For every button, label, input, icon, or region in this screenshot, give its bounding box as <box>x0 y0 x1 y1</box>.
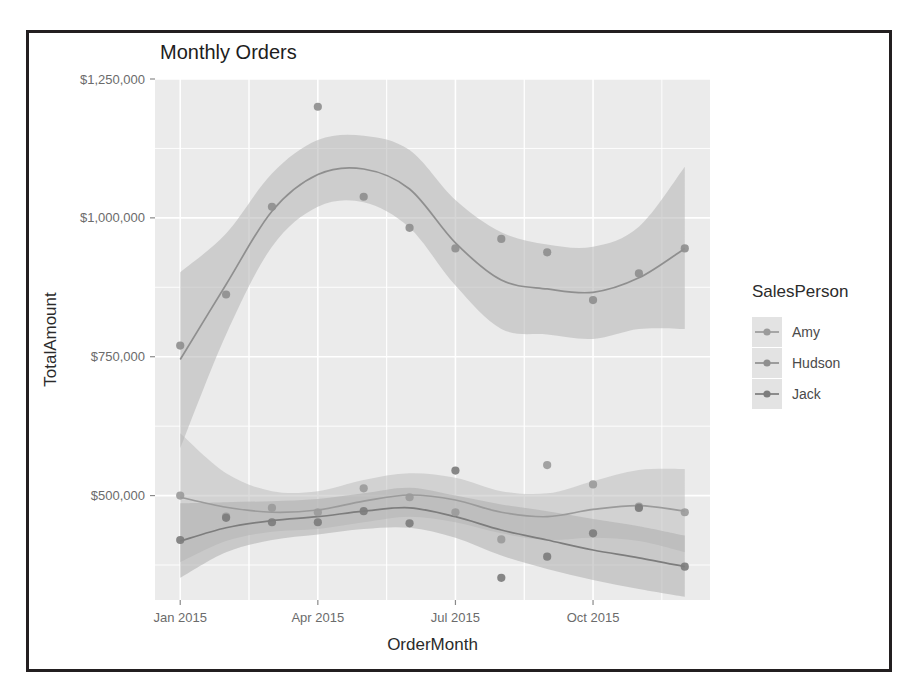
data-point-jack-10[interactable] <box>635 504 643 512</box>
data-point-jack-6[interactable] <box>451 466 459 474</box>
data-point-hudson-11[interactable] <box>681 244 689 252</box>
ytick-label-3: $500,000 <box>91 488 145 503</box>
data-point-jack-0[interactable] <box>176 536 184 544</box>
legend-key-point-hudson <box>763 359 770 366</box>
data-point-amy-4[interactable] <box>360 484 368 492</box>
data-point-amy-2[interactable] <box>268 504 276 512</box>
data-point-hudson-10[interactable] <box>635 269 643 277</box>
data-point-amy-0[interactable] <box>176 491 184 499</box>
data-point-amy-8[interactable] <box>543 461 551 469</box>
legend-title: SalesPerson <box>752 282 848 301</box>
xtick-label-0: Jan 2015 <box>153 610 207 625</box>
data-point-jack-3[interactable] <box>314 518 322 526</box>
y-axis-title: TotalAmount <box>41 292 60 387</box>
data-point-jack-8[interactable] <box>543 553 551 561</box>
xtick-label-2: Jul 2015 <box>431 610 480 625</box>
data-point-jack-9[interactable] <box>589 529 597 537</box>
ytick-label-0: $1,250,000 <box>80 72 145 87</box>
data-point-hudson-5[interactable] <box>405 224 413 232</box>
data-point-hudson-3[interactable] <box>314 103 322 111</box>
chart-stage: $1,250,000$1,000,000$750,000$500,000Jan … <box>0 0 917 700</box>
data-point-hudson-6[interactable] <box>451 244 459 252</box>
data-point-jack-4[interactable] <box>360 507 368 515</box>
ytick-label-1: $1,000,000 <box>80 210 145 225</box>
data-point-amy-5[interactable] <box>405 493 413 501</box>
data-point-hudson-1[interactable] <box>222 290 230 298</box>
xtick-label-3: Oct 2015 <box>567 610 620 625</box>
plot-title: Monthly Orders <box>160 41 297 63</box>
data-point-jack-11[interactable] <box>681 563 689 571</box>
data-point-jack-7[interactable] <box>497 574 505 582</box>
xtick-label-1: Apr 2015 <box>291 610 344 625</box>
data-point-amy-11[interactable] <box>681 508 689 516</box>
data-point-hudson-7[interactable] <box>497 235 505 243</box>
data-point-jack-1[interactable] <box>222 514 230 522</box>
data-point-amy-6[interactable] <box>451 508 459 516</box>
data-point-hudson-9[interactable] <box>589 296 597 304</box>
legend-key-point-jack <box>763 390 770 397</box>
data-point-hudson-8[interactable] <box>543 248 551 256</box>
data-point-amy-3[interactable] <box>314 508 322 516</box>
legend-label-hudson: Hudson <box>792 355 840 371</box>
data-point-amy-9[interactable] <box>589 480 597 488</box>
data-point-hudson-0[interactable] <box>176 342 184 350</box>
data-point-jack-2[interactable] <box>268 518 276 526</box>
legend-label-amy: Amy <box>792 324 820 340</box>
monthly-orders-chart: $1,250,000$1,000,000$750,000$500,000Jan … <box>0 0 917 700</box>
ytick-label-2: $750,000 <box>91 349 145 364</box>
x-axis-title: OrderMonth <box>387 635 478 654</box>
data-point-jack-5[interactable] <box>405 519 413 527</box>
legend-key-point-amy <box>763 328 770 335</box>
legend-label-jack: Jack <box>792 386 822 402</box>
data-point-hudson-2[interactable] <box>268 203 276 211</box>
data-point-hudson-4[interactable] <box>360 193 368 201</box>
data-point-amy-7[interactable] <box>497 535 505 543</box>
